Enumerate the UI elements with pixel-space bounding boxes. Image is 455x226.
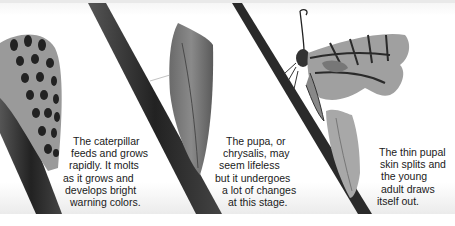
caption-pupa: The pupa, or chrysalis, may seem lifeles…: [215, 135, 296, 208]
caption-line: rapidly. It molts: [62, 159, 148, 171]
caption-line: feeds and grows: [62, 147, 148, 159]
caption-line: adult draws: [377, 183, 446, 195]
caption-line: The pupa, or: [215, 135, 296, 147]
caption-line: The caterpillar: [62, 135, 148, 147]
caption-line: itself out.: [377, 195, 446, 207]
caption-line: seem lifeless: [215, 159, 296, 171]
caption-caterpillar: The caterpillar feeds and grows rapidly.…: [62, 135, 148, 208]
caption-line: skin splits and: [377, 158, 446, 170]
caption-line: a lot of changes: [215, 184, 296, 196]
caption-line: The thin pupal: [377, 146, 446, 158]
lifecycle-illustration: The caterpillar feeds and grows rapidly.…: [0, 3, 455, 214]
caption-line: warning colors.: [62, 196, 148, 208]
caption-line: the young: [377, 170, 446, 182]
caption-line: chrysalis, may: [215, 147, 296, 159]
caption-line: but it undergoes: [215, 172, 296, 184]
caption-line: at this stage.: [215, 196, 296, 208]
caption-line: as it grows and: [62, 172, 148, 184]
caption-emerging-adult: The thin pupal skin splits and the young…: [377, 146, 446, 207]
caption-line: develops bright: [62, 184, 148, 196]
